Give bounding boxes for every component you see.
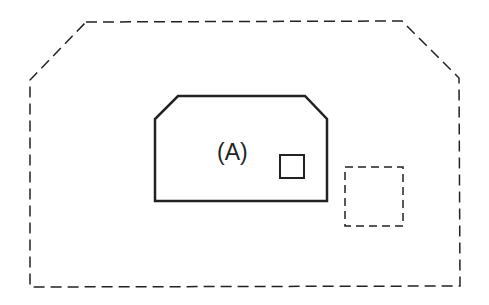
- diagram-canvas: (A): [0, 0, 489, 305]
- small-solid-square: [280, 155, 304, 178]
- region-label-a: (A): [217, 139, 248, 165]
- dashed-square: [345, 167, 403, 226]
